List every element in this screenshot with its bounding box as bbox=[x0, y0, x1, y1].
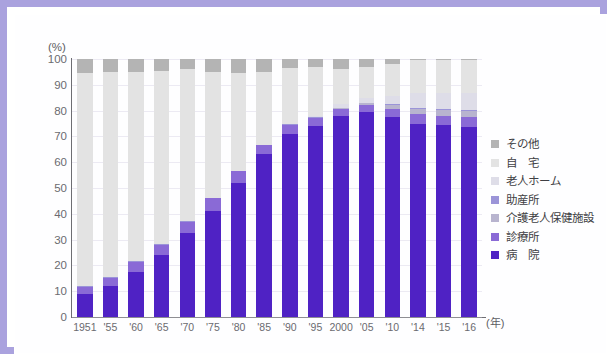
bar-stack bbox=[128, 59, 144, 317]
x-axis-tick-label: '70 bbox=[175, 321, 201, 333]
y-axis-tick-label: 100 bbox=[23, 54, 67, 64]
y-axis-tick-label: 90 bbox=[23, 80, 67, 90]
bar-segment bbox=[256, 154, 272, 317]
bar-segment bbox=[77, 59, 93, 73]
legend-item[interactable]: 病 院 bbox=[491, 246, 603, 265]
x-axis-tick-label: '85 bbox=[251, 321, 277, 333]
y-axis-tick-label: 40 bbox=[23, 209, 67, 219]
legend-item-label: 自 宅 bbox=[506, 157, 539, 169]
y-axis-tick-label: 60 bbox=[23, 157, 67, 167]
bar-stack bbox=[180, 59, 196, 317]
bar-stack bbox=[154, 59, 170, 317]
chart-frame: (%) (年) 1009080706050403020100 その他自 宅老人ホ… bbox=[0, 0, 607, 354]
x-axis-tick-label: '14 bbox=[405, 321, 431, 333]
bar-segment bbox=[231, 171, 247, 183]
bar-segment bbox=[282, 134, 298, 317]
x-axis-tick-label: '95 bbox=[303, 321, 329, 333]
bar-segment bbox=[308, 67, 324, 116]
bar-segment bbox=[128, 262, 144, 272]
bar-segment bbox=[103, 278, 119, 286]
bar-segment bbox=[436, 93, 452, 109]
bar-segment bbox=[436, 60, 452, 93]
chart-canvas: (%) (年) 1009080706050403020100 その他自 宅老人ホ… bbox=[14, 14, 607, 354]
x-axis-unit-label: (年) bbox=[486, 314, 504, 330]
bar-segment bbox=[461, 127, 477, 317]
bar-segment bbox=[410, 60, 426, 93]
legend-swatch-icon bbox=[491, 177, 499, 185]
legend-item[interactable]: 自 宅 bbox=[491, 154, 603, 173]
bar-segment bbox=[205, 211, 221, 317]
bar-stack bbox=[333, 59, 349, 317]
bar-segment bbox=[103, 72, 119, 277]
bar-segment bbox=[256, 145, 272, 154]
bar-segment bbox=[128, 272, 144, 317]
y-axis-tick-label: 70 bbox=[23, 131, 67, 141]
bar-segment bbox=[308, 118, 324, 126]
bar-segment bbox=[308, 126, 324, 317]
legend-item[interactable]: 介護老人保健施設 bbox=[491, 209, 603, 228]
bar-stack bbox=[231, 59, 247, 317]
bar-segment bbox=[256, 72, 272, 145]
bar-segment bbox=[154, 71, 170, 244]
bar-segment bbox=[385, 96, 401, 104]
bar-stack bbox=[256, 59, 272, 317]
bar-stack bbox=[308, 59, 324, 317]
bar-segment bbox=[385, 64, 401, 97]
bar-stack bbox=[103, 59, 119, 317]
bar-segment bbox=[205, 72, 221, 198]
bar-segment bbox=[308, 59, 324, 67]
y-axis-tick-label: 20 bbox=[23, 260, 67, 270]
bar-segment bbox=[359, 112, 375, 317]
chart-legend: その他自 宅老人ホーム助産所介護老人保健施設診療所病 院 bbox=[491, 135, 603, 265]
legend-item-label: その他 bbox=[506, 138, 539, 150]
y-axis-unit-label: (%) bbox=[48, 41, 66, 53]
legend-swatch-icon bbox=[491, 159, 499, 167]
bar-segment bbox=[128, 59, 144, 72]
legend-item[interactable]: 老人ホーム bbox=[491, 172, 603, 191]
x-axis-tick-label: 2000 bbox=[328, 321, 354, 333]
bar-segment bbox=[180, 59, 196, 69]
bar-stack bbox=[282, 59, 298, 317]
bar-stack bbox=[205, 59, 221, 317]
legend-item-label: 診療所 bbox=[506, 231, 539, 243]
bar-segment bbox=[461, 93, 477, 111]
bar-stack bbox=[385, 59, 401, 317]
bar-segment bbox=[385, 117, 401, 317]
bar-segment bbox=[333, 59, 349, 69]
y-axis-tick-label: 30 bbox=[23, 235, 67, 245]
bar-segment bbox=[333, 116, 349, 317]
bar-segment bbox=[154, 255, 170, 317]
bar-segment bbox=[205, 59, 221, 72]
bar-segment bbox=[205, 198, 221, 211]
x-axis-tick-label: '60 bbox=[123, 321, 149, 333]
legend-item[interactable]: その他 bbox=[491, 135, 603, 154]
grid-line bbox=[72, 317, 482, 318]
bar-segment bbox=[154, 59, 170, 71]
legend-swatch-icon bbox=[491, 214, 499, 222]
x-axis-tick-label: '65 bbox=[149, 321, 175, 333]
legend-item-label: 老人ホーム bbox=[506, 175, 561, 187]
x-axis-tick-label: '10 bbox=[380, 321, 406, 333]
bar-segment bbox=[461, 117, 477, 127]
x-axis-tick-label: '80 bbox=[226, 321, 252, 333]
bar-stack bbox=[410, 59, 426, 317]
x-axis-tick-label: '15 bbox=[431, 321, 457, 333]
bar-segment bbox=[385, 109, 401, 117]
legend-swatch-icon bbox=[491, 196, 499, 204]
legend-swatch-icon bbox=[491, 140, 499, 148]
legend-item-label: 病 院 bbox=[506, 249, 539, 261]
x-axis-tick-label: 1951 bbox=[72, 321, 98, 333]
bar-segment bbox=[77, 294, 93, 317]
bar-segment bbox=[154, 245, 170, 255]
bar-segment bbox=[410, 124, 426, 318]
x-axis-tick-label: '16 bbox=[456, 321, 482, 333]
bar-segment bbox=[256, 59, 272, 72]
bar-segment bbox=[231, 183, 247, 317]
bar-stack bbox=[77, 59, 93, 317]
bar-stack bbox=[359, 59, 375, 317]
bar-segment bbox=[333, 69, 349, 105]
legend-item[interactable]: 診療所 bbox=[491, 228, 603, 247]
bar-segment bbox=[128, 72, 144, 261]
plot-area bbox=[72, 59, 482, 317]
legend-item[interactable]: 助産所 bbox=[491, 191, 603, 210]
